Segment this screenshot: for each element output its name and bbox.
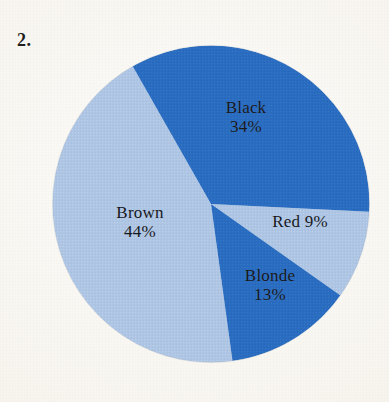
pie-label-blonde-value: 13% xyxy=(214,285,326,304)
pie-chart: Black 34% Brown 44% Red 9% Blonde 13% xyxy=(0,0,389,402)
pie-label-brown-name: Brown xyxy=(84,203,196,222)
pie-label-red-value: 9% xyxy=(305,212,328,231)
pie-label-blonde-name: Blonde xyxy=(214,266,326,285)
pie-label-brown-value: 44% xyxy=(84,222,196,241)
pie-label-black-value: 34% xyxy=(190,117,302,136)
pie-label-red: Red 9% xyxy=(244,212,356,231)
pie-label-red-name: Red xyxy=(272,212,300,231)
pie-chart-svg xyxy=(0,0,389,402)
pie-label-black: Black 34% xyxy=(190,98,302,136)
pie-label-blonde: Blonde 13% xyxy=(214,266,326,304)
pie-label-brown: Brown 44% xyxy=(84,203,196,241)
pie-label-black-name: Black xyxy=(190,98,302,117)
